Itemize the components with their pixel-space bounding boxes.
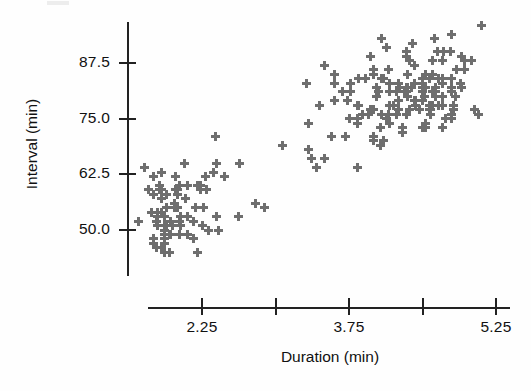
- data-point-marker: [160, 221, 169, 230]
- y-tick-label: 75.0: [62, 109, 110, 127]
- scan-artifact: [47, 1, 69, 5]
- data-point-marker: [220, 172, 229, 181]
- data-point-marker: [372, 92, 381, 101]
- data-point-marker: [460, 56, 469, 65]
- data-point-marker: [438, 74, 447, 83]
- data-point-marker: [166, 230, 175, 239]
- y-tick-label: 87.5: [62, 53, 110, 71]
- data-point-marker: [379, 136, 388, 145]
- data-point-marker: [376, 123, 385, 132]
- data-point-marker: [165, 248, 174, 257]
- data-point-marker: [379, 74, 388, 83]
- data-point-marker: [149, 172, 158, 181]
- data-point-marker: [157, 208, 166, 217]
- data-point-marker: [377, 74, 386, 83]
- x-tick-mark: [495, 298, 497, 315]
- data-point-marker: [418, 87, 427, 96]
- scatter-plot-figure: 50.062.575.087.5 2.253.755.25 Duration (…: [0, 0, 531, 391]
- data-point-marker: [421, 123, 430, 132]
- data-point-marker: [330, 96, 339, 105]
- data-point-marker: [376, 141, 385, 150]
- data-point-marker: [144, 185, 153, 194]
- data-point-marker: [196, 185, 205, 194]
- data-point-marker: [403, 70, 412, 79]
- data-point-marker: [456, 79, 465, 88]
- data-point-marker: [152, 217, 161, 226]
- data-point-marker: [157, 185, 166, 194]
- data-point-marker: [395, 83, 404, 92]
- data-point-marker: [320, 154, 329, 163]
- data-point-marker: [162, 203, 171, 212]
- data-point-marker: [343, 96, 352, 105]
- data-point-marker: [394, 96, 403, 105]
- data-point-marker: [438, 92, 447, 101]
- data-point-marker: [470, 105, 479, 114]
- data-point-marker: [160, 212, 169, 221]
- data-point-marker: [304, 145, 313, 154]
- data-point-marker: [425, 74, 434, 83]
- data-point-marker: [212, 159, 221, 168]
- data-point-marker: [426, 105, 435, 114]
- data-point-marker: [189, 234, 198, 243]
- x-axis-title: Duration (min): [190, 348, 470, 366]
- data-point-marker: [385, 119, 394, 128]
- data-point-marker: [198, 221, 207, 230]
- data-point-marker: [157, 243, 166, 252]
- data-point-marker: [341, 132, 350, 141]
- data-point-marker: [418, 74, 427, 83]
- data-point-marker: [418, 96, 427, 105]
- y-tick-label: 50.0: [62, 220, 110, 238]
- data-point-marker: [166, 217, 175, 226]
- data-point-marker: [398, 123, 407, 132]
- data-point-marker: [384, 110, 393, 119]
- data-point-marker: [467, 56, 476, 65]
- y-tick-mark: [119, 62, 136, 64]
- data-point-marker: [402, 110, 411, 119]
- data-point-marker: [426, 105, 435, 114]
- data-point-marker: [175, 230, 184, 239]
- data-point-marker: [165, 230, 174, 239]
- x-tick-label: 5.25: [461, 318, 531, 336]
- data-point-marker: [345, 114, 354, 123]
- data-point-marker: [400, 87, 409, 96]
- data-point-marker: [346, 87, 355, 96]
- y-axis-line: [127, 22, 129, 276]
- y-axis-title: Interval (min): [23, 49, 41, 239]
- data-point-marker: [441, 114, 450, 123]
- x-tick-mark: [422, 298, 424, 315]
- data-point-marker: [451, 92, 460, 101]
- data-point-marker: [175, 217, 184, 226]
- data-point-marker: [425, 101, 434, 110]
- data-point-marker: [447, 83, 456, 92]
- data-point-marker: [160, 230, 169, 239]
- data-point-marker: [234, 212, 243, 221]
- data-point-marker: [392, 87, 401, 96]
- data-point-marker: [374, 87, 383, 96]
- data-point-marker: [439, 47, 448, 56]
- y-tick-mark: [119, 229, 136, 231]
- data-point-marker: [358, 110, 367, 119]
- data-point-marker: [235, 159, 244, 168]
- data-point-marker: [434, 101, 443, 110]
- data-point-marker: [153, 208, 162, 217]
- data-point-marker: [171, 172, 180, 181]
- data-point-marker: [405, 105, 414, 114]
- data-point-marker: [211, 132, 220, 141]
- data-point-marker: [153, 212, 162, 221]
- data-point-marker: [410, 79, 419, 88]
- data-point-marker: [447, 110, 456, 119]
- data-point-marker: [196, 181, 205, 190]
- data-point-marker: [214, 226, 223, 235]
- data-point-marker: [364, 110, 373, 119]
- data-point-marker: [157, 168, 166, 177]
- data-point-marker: [447, 74, 456, 83]
- data-point-marker: [181, 194, 190, 203]
- data-point-marker: [438, 79, 447, 88]
- data-point-marker: [403, 83, 412, 92]
- data-point-marker: [176, 221, 185, 230]
- data-point-marker: [407, 83, 416, 92]
- data-point-marker: [160, 226, 169, 235]
- data-point-marker: [170, 203, 179, 212]
- data-point-marker: [377, 110, 386, 119]
- data-point-marker: [446, 47, 455, 56]
